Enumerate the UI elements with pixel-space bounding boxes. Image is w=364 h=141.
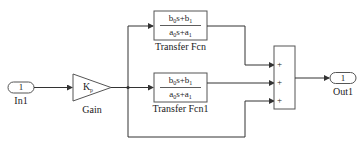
tf2-denominator: a0s+a1	[154, 89, 207, 103]
inport-label: In1	[6, 95, 36, 106]
gain-label: Gain	[72, 104, 112, 115]
signal-tf1-to-sum	[207, 26, 274, 65]
signal-to-tf1	[128, 26, 153, 88]
outport-number: 1	[330, 73, 356, 83]
tf2-numerator: b0s+b1	[154, 75, 207, 89]
tf2-label: Transfer Fcn1	[146, 103, 215, 114]
inport-number: 1	[8, 82, 34, 92]
tf1-numerator: b0s+b1	[154, 13, 207, 27]
gain-symbol: Kp	[78, 81, 98, 96]
tf1-denominator: a0s+a1	[154, 27, 207, 41]
outport-label: Out1	[328, 86, 358, 97]
tf1-label: Transfer Fcn	[150, 41, 211, 52]
sum-sign-3: +	[277, 95, 282, 105]
sum-sign-2: +	[277, 77, 282, 87]
sum-sign-1: +	[277, 59, 282, 69]
